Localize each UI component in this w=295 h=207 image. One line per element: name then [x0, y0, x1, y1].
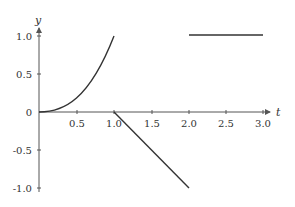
- y-tick-label: -1.0: [13, 183, 32, 194]
- x-tick-label: 2.5: [218, 118, 234, 129]
- x-tick-label: 0.5: [69, 118, 85, 129]
- y-tick-label: 1.0: [16, 31, 32, 42]
- y-tick-label: 0.5: [16, 69, 32, 80]
- series-cubic-curve: [39, 36, 114, 112]
- x-axis-label: t: [276, 106, 281, 119]
- y-tick-label: -0.5: [13, 145, 32, 156]
- x-tick-label: 1.5: [144, 118, 160, 129]
- y-tick-label: 0: [26, 107, 32, 118]
- y-axis-label: y: [34, 14, 42, 27]
- x-tick-label: 1.0: [106, 118, 122, 129]
- chart: y t 0.5 1.0 1.5 2.0 2.5 3.0 1.0 0.5 0 -0…: [0, 0, 295, 207]
- x-tick-label: 3.0: [255, 118, 271, 129]
- x-tick-label: 2.0: [181, 118, 197, 129]
